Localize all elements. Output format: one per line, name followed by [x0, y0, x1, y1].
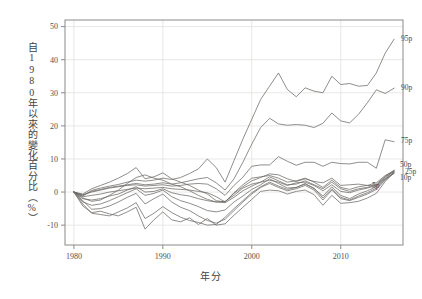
y-tick-label: 10 — [50, 155, 58, 164]
y-tick-label: 50 — [50, 22, 58, 31]
series-label-90p: 90p — [401, 83, 413, 92]
x-tick-label: 1980 — [66, 252, 82, 261]
series-label-95p: 95p — [401, 34, 413, 43]
chart-figure: -10010203040501980199020002010 95p90p75p… — [0, 0, 422, 299]
x-tick-label: 1990 — [155, 252, 171, 261]
x-axis-label-text: 年分 — [200, 271, 222, 282]
y-tick-label: 20 — [50, 122, 58, 131]
x-axis-label: 年分 — [0, 268, 422, 283]
x-tick-label: 2010 — [333, 252, 349, 261]
y-tick-label: 40 — [50, 56, 58, 65]
series-label-75p: 75p — [401, 136, 413, 145]
chart-background — [0, 0, 422, 299]
y-tick-label: 0 — [54, 188, 58, 197]
y-tick-label: 30 — [50, 89, 58, 98]
x-tick-label: 2000 — [244, 252, 260, 261]
y-tick-label: -10 — [47, 221, 58, 230]
percentile-change-line-chart: -10010203040501980199020002010 95p90p75p… — [0, 0, 422, 299]
series-label-5p: 5p — [372, 181, 380, 190]
series-label-10p: 10p — [400, 173, 412, 182]
